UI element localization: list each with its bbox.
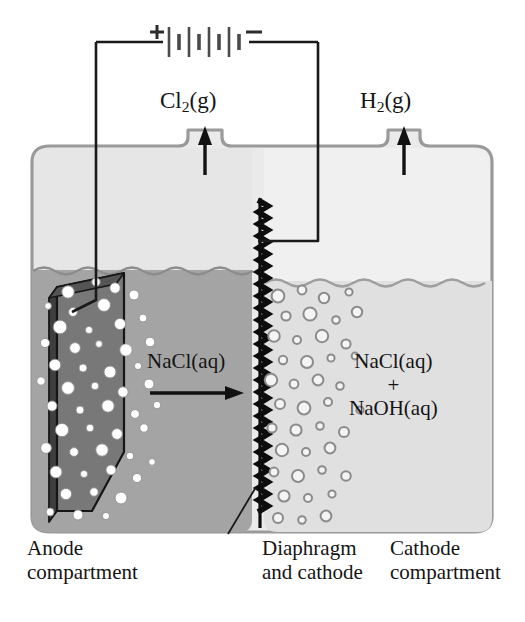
- anode-caption-line2: compartment: [27, 561, 138, 585]
- anode-headspace: [34, 148, 252, 272]
- catholyte-formula-label: NaCl(aq) + NaOH(aq): [349, 350, 438, 421]
- catholyte-formula-line1: NaCl(aq): [349, 350, 438, 374]
- chlorine-gas-label: Cl2(g): [160, 88, 216, 116]
- chlorine-formula-sub: 2: [182, 98, 190, 115]
- battery-symbol: [169, 27, 239, 57]
- hydrogen-formula-state: (g): [384, 88, 411, 113]
- electrolysis-cell-diagram: [0, 0, 525, 622]
- diaphragm-caption: Diaphragm and cathode: [262, 537, 363, 584]
- hydrogen-gas-label: H2(g): [360, 88, 411, 116]
- cathode-compartment-caption: Cathode compartment: [390, 537, 501, 584]
- anode-compartment-caption: Anode compartment: [27, 537, 138, 584]
- diaphragm-caption-line1: Diaphragm: [262, 536, 356, 560]
- chlorine-formula-base: Cl: [160, 88, 182, 113]
- catholyte-formula-plus: +: [349, 374, 438, 398]
- anode-caption-line1: Anode: [27, 536, 83, 560]
- diaphragm-caption-line2: and cathode: [262, 561, 363, 585]
- cathode-caption-line1: Cathode: [390, 536, 460, 560]
- catholyte-formula-line2: NaOH(aq): [349, 397, 438, 421]
- cathode-headspace: [264, 148, 490, 283]
- cathode-caption-line2: compartment: [390, 561, 501, 585]
- chlorine-formula-state: (g): [190, 88, 217, 113]
- battery-positive-sign: [150, 25, 164, 39]
- hydrogen-formula-base: H: [360, 88, 377, 113]
- anolyte-formula-label: NaCl(aq): [147, 350, 225, 374]
